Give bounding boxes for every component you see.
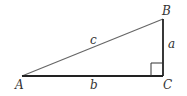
vertex-label-c: C [163, 78, 172, 92]
vertex-label-a: A [14, 78, 24, 92]
side-label-a: a [168, 37, 175, 51]
side-label-c: c [90, 33, 97, 47]
side-label-b: b [90, 78, 98, 92]
right-angle-marker [151, 63, 163, 76]
side-c-hypotenuse [22, 19, 163, 76]
triangle-diagram: A B C a b c [0, 0, 187, 96]
vertex-label-b: B [161, 4, 171, 18]
